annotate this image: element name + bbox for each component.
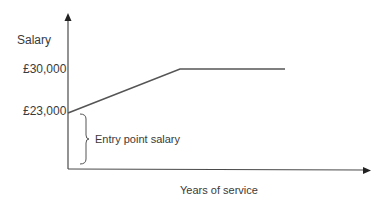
- x-axis-arrow-icon: [363, 167, 371, 174]
- bracket-label: Entry point salary: [95, 133, 180, 145]
- y-axis-arrow-icon: [65, 13, 72, 21]
- entry-bracket: [80, 114, 89, 164]
- salary-line: [68, 69, 285, 113]
- x-axis: [68, 169, 364, 170]
- y-axis-label: Salary: [17, 33, 51, 47]
- x-axis-label: Years of service: [180, 184, 258, 196]
- tick-23000: £23,000: [23, 104, 66, 118]
- tick-30000: £30,000: [23, 62, 66, 76]
